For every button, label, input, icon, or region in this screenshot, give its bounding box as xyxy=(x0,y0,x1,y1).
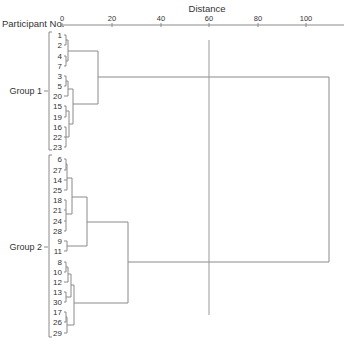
tick-label: 20 xyxy=(108,14,116,23)
leaf-label: 6 xyxy=(58,155,63,164)
leaf-label: 18 xyxy=(53,196,62,205)
row-axis-label: Participant No. xyxy=(2,18,64,29)
leaf-label: 21 xyxy=(53,206,62,215)
leaf-label: 29 xyxy=(53,329,62,338)
branch xyxy=(64,35,66,45)
leaf-label: 3 xyxy=(58,72,63,81)
leaf-label: 10 xyxy=(53,268,62,277)
group-label: Group 2 xyxy=(9,242,42,252)
branch xyxy=(87,222,128,283)
tick-label: 0 xyxy=(60,14,64,23)
dendrogram-chart: Distance Participant No. 020406080100 12… xyxy=(0,0,347,351)
leaf-label: 27 xyxy=(53,166,62,175)
branch xyxy=(64,262,66,272)
group-2-bracket xyxy=(49,155,52,337)
tick-label: 100 xyxy=(300,14,313,23)
leaf-labels: 1247352015191622236271425182124289118101… xyxy=(53,31,62,338)
branch xyxy=(64,159,66,170)
leaf-label: 28 xyxy=(53,227,62,236)
leaf-label: 4 xyxy=(58,52,63,61)
group-brackets xyxy=(49,32,52,337)
dendrogram-branches xyxy=(64,35,329,333)
leaf-label: 19 xyxy=(53,113,62,122)
branch xyxy=(64,312,66,322)
axis-title: Distance xyxy=(189,3,226,14)
leaf-label: 30 xyxy=(53,298,62,307)
leaf-label: 12 xyxy=(53,278,62,287)
leaf-label: 22 xyxy=(53,133,62,142)
leaf-label: 1 xyxy=(58,31,63,40)
leaf-label: 11 xyxy=(54,247,63,256)
leaf-label: 24 xyxy=(53,217,62,226)
leaf-label: 5 xyxy=(58,82,63,91)
branch xyxy=(64,200,66,231)
leaf-label: 15 xyxy=(53,102,62,111)
group-label: Group 1 xyxy=(9,86,42,96)
branch xyxy=(64,56,66,66)
leaf-label: 25 xyxy=(53,186,62,195)
leaf-label: 17 xyxy=(53,308,62,317)
leaf-label: 14 xyxy=(53,176,62,185)
branch xyxy=(64,292,66,302)
leaf-label: 23 xyxy=(53,143,62,152)
group-labels: Group 1Group 2 xyxy=(9,86,48,252)
leaf-label: 20 xyxy=(53,92,62,101)
leaf-label: 8 xyxy=(58,258,63,267)
leaf-label: 16 xyxy=(53,123,62,132)
branch xyxy=(74,283,128,303)
leaf-label: 13 xyxy=(53,288,62,297)
branch xyxy=(64,241,67,251)
tick-label: 80 xyxy=(254,14,262,23)
leaf-label: 7 xyxy=(58,62,63,71)
branch xyxy=(67,197,87,246)
tick-label: 60 xyxy=(205,14,213,23)
tick-label: 40 xyxy=(157,14,165,23)
leaf-label: 26 xyxy=(53,318,62,327)
branch xyxy=(64,76,66,86)
group-1-bracket xyxy=(49,32,52,150)
leaf-label: 9 xyxy=(58,237,63,246)
branch xyxy=(64,106,66,117)
leaf-label: 2 xyxy=(58,41,63,50)
